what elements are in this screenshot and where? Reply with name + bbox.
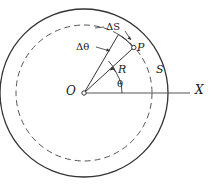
delta-theta-leader xyxy=(96,47,110,51)
origin-label: O xyxy=(66,85,76,97)
theta-angle-label: θ xyxy=(117,79,123,89)
delta-S-arc xyxy=(119,34,134,47)
point-p-label: P xyxy=(137,42,144,53)
origin-marker xyxy=(82,91,86,95)
delta-theta-label: Δθ xyxy=(76,42,89,52)
x-axis-label: X xyxy=(195,84,204,96)
radius-R-line xyxy=(84,48,134,94)
delta-s-label: ΔS xyxy=(106,22,120,32)
circle-s-label: S xyxy=(156,64,164,75)
point-P-marker xyxy=(132,45,136,49)
radius-label: R xyxy=(118,64,126,75)
